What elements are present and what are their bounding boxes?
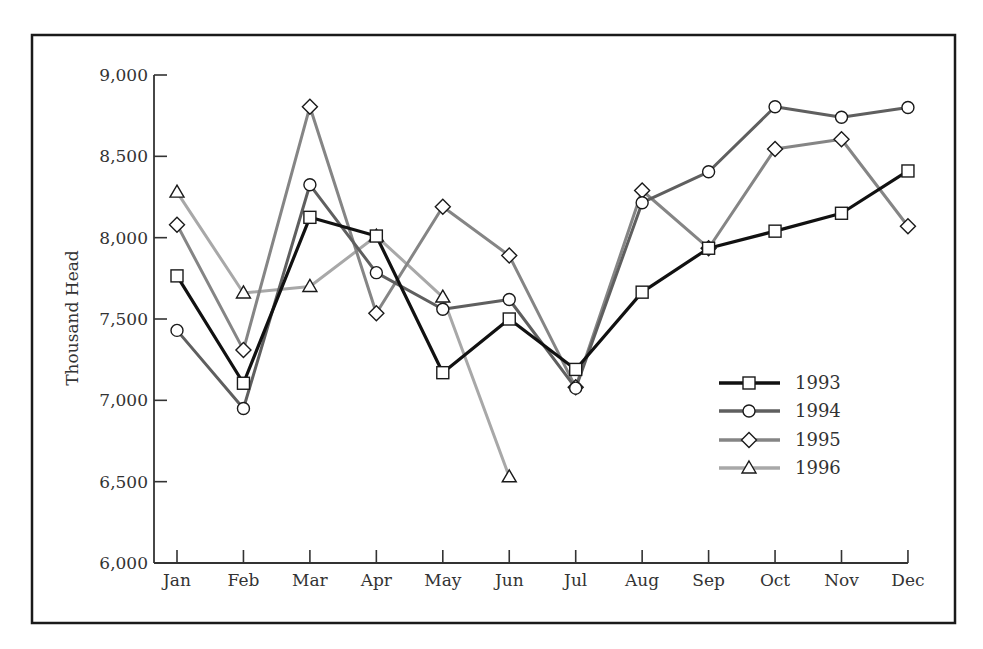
circle-marker-icon (902, 102, 914, 114)
square-marker-icon (503, 313, 515, 325)
legend-label: 1995 (795, 429, 841, 450)
circle-marker-icon (703, 166, 715, 178)
x-tick-label: Aug (624, 570, 659, 590)
circle-marker-icon (570, 382, 582, 394)
square-marker-icon (237, 377, 249, 389)
y-tick-label: 8,000 (99, 228, 148, 248)
y-tick-label: 6,500 (99, 472, 148, 492)
square-marker-icon (902, 165, 914, 177)
x-tick-label: Mar (292, 570, 329, 590)
square-marker-icon (636, 286, 648, 298)
x-tick-label: Apr (360, 570, 393, 590)
square-marker-icon (703, 242, 715, 254)
circle-marker-icon (743, 405, 755, 417)
x-tick-label: Jan (161, 570, 191, 590)
x-tick-label: Feb (228, 570, 260, 590)
square-marker-icon (769, 225, 781, 237)
square-marker-icon (304, 211, 316, 223)
circle-marker-icon (503, 293, 515, 305)
x-tick-label: Dec (891, 570, 924, 590)
y-tick-label: 9,000 (99, 65, 148, 85)
square-marker-icon (570, 363, 582, 375)
square-marker-icon (370, 230, 382, 242)
y-tick-label: 6,000 (99, 553, 148, 573)
x-tick-label: Oct (760, 570, 790, 590)
circle-marker-icon (171, 324, 183, 336)
square-marker-icon (437, 367, 449, 379)
y-tick-label: 8,500 (99, 146, 148, 166)
y-tick-label: 7,500 (99, 309, 148, 329)
x-tick-label: Sep (692, 570, 725, 590)
line-chart: 6,0006,5007,0007,5008,0008,5009,000JanFe… (0, 0, 983, 649)
y-axis-title: Thousand Head (62, 250, 82, 386)
circle-marker-icon (769, 101, 781, 113)
square-marker-icon (171, 270, 183, 282)
circle-marker-icon (370, 267, 382, 279)
x-tick-label: Jun (493, 570, 524, 590)
circle-marker-icon (304, 179, 316, 191)
circle-marker-icon (237, 402, 249, 414)
circle-marker-icon (437, 303, 449, 315)
circle-marker-icon (836, 111, 848, 123)
legend-label: 1994 (795, 400, 841, 421)
legend-label: 1996 (795, 457, 841, 478)
x-tick-label: Jul (562, 570, 587, 590)
circle-marker-icon (636, 197, 648, 209)
y-tick-label: 7,000 (99, 390, 148, 410)
x-tick-label: Nov (824, 570, 859, 590)
legend-label: 1993 (795, 372, 841, 393)
square-marker-icon (836, 207, 848, 219)
square-marker-icon (743, 377, 755, 389)
x-tick-label: May (424, 570, 462, 590)
